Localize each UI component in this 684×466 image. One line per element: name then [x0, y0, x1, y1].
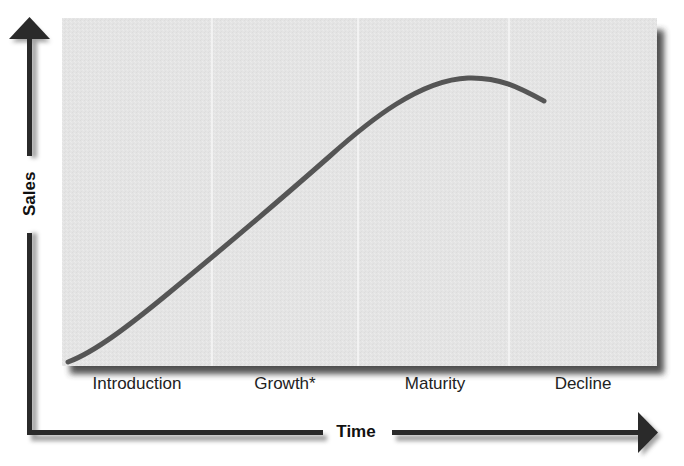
x-axis-title: Time: [330, 422, 382, 442]
chart-graphics: [0, 0, 684, 466]
y-axis-arrowhead-icon: [9, 17, 50, 39]
stage-label-introduction: Introduction: [62, 374, 212, 394]
plot-panel: [62, 18, 657, 366]
stage-label-growth: Growth*: [210, 374, 360, 394]
product-life-cycle-chart: Sales Time Introduction Growth* Maturity…: [0, 0, 684, 466]
x-axis-shaft-right: [392, 430, 640, 435]
stage-label-maturity: Maturity: [360, 374, 510, 394]
y-axis-title: Sales: [20, 172, 40, 216]
stage-label-decline: Decline: [508, 374, 658, 394]
x-axis-shaft-left: [27, 430, 323, 435]
y-axis-shaft-lower: [27, 233, 32, 435]
y-axis-shaft-upper: [27, 36, 32, 156]
y-axis: [9, 17, 50, 435]
